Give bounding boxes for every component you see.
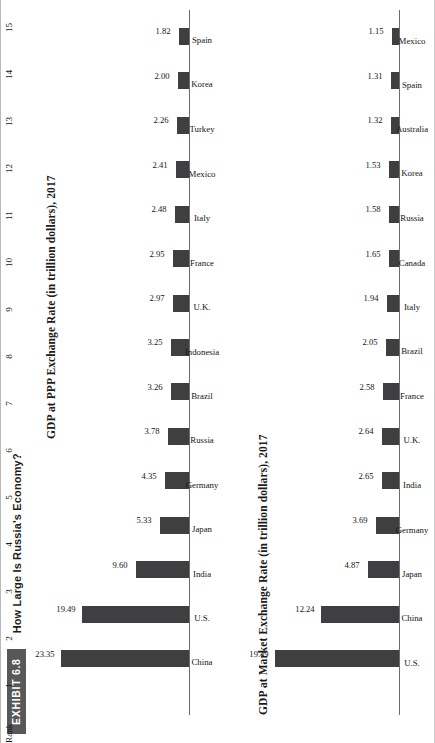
category-label: Indonesia (192, 325, 222, 369)
bar-value-label: 2.48 (152, 204, 167, 214)
category-label: Turkey (192, 103, 222, 147)
bar-value-label: 1.53 (366, 160, 381, 170)
category-label: Brazil (192, 370, 222, 414)
category-label: India (402, 459, 432, 503)
category-label: U.K. (402, 414, 432, 458)
rank-cell: 3 (4, 568, 14, 615)
bar-value-label: 1.94 (363, 293, 378, 303)
bar-ppp-russia (168, 428, 189, 445)
bar-value-label: 2.41 (152, 160, 167, 170)
bar-slot: 3.26 (59, 370, 189, 414)
bar-ppp-brazil (171, 383, 189, 400)
bar-ppp-turkey (177, 117, 189, 134)
bar-ppp-u-k (173, 295, 189, 312)
category-label: Spain (402, 58, 432, 102)
category-label: Canada (402, 236, 432, 280)
rank-cell: 13 (4, 98, 14, 145)
category-label: France (402, 370, 432, 414)
category-label: Mexico (192, 147, 222, 191)
category-label: India (192, 548, 222, 592)
bar-market-china (321, 606, 399, 623)
category-label: Italy (402, 281, 432, 325)
bar-market-u-k (382, 428, 399, 445)
chart-ppp-plot: 23.3519.499.605.334.353.783.263.252.972.… (59, 14, 189, 681)
bar-value-label: 23.35 (35, 649, 54, 659)
bar-value-label: 4.87 (345, 560, 360, 570)
bar-value-label: 3.69 (352, 515, 367, 525)
chart-gdp-ppp: GDP at PPP Exchange Rate (in trillion do… (45, 10, 223, 715)
rank-cell: 10 (4, 239, 14, 286)
category-label: Germany (402, 503, 432, 547)
bar-slot: 3.78 (59, 414, 189, 458)
bar-slot: 2.65 (273, 459, 399, 503)
rank-cell: 1 (4, 662, 14, 709)
category-label: Japan (192, 503, 222, 547)
bar-market-brazil (386, 339, 399, 356)
bar-market-italy (387, 295, 399, 312)
bar-value-label: 2.58 (359, 382, 374, 392)
bar-value-label: 3.26 (148, 382, 163, 392)
bar-ppp-italy (175, 206, 189, 223)
category-label: U.S. (402, 637, 432, 681)
bar-slot: 4.87 (273, 548, 399, 592)
bar-value-label: 2.26 (153, 115, 168, 125)
bar-value-label: 4.35 (142, 471, 157, 481)
bar-slot: 4.35 (59, 459, 189, 503)
bar-market-korea (389, 161, 399, 178)
bar-slot: 2.48 (59, 192, 189, 236)
chart-ppp-bars: 23.3519.499.605.334.353.783.263.252.972.… (59, 14, 189, 681)
chart-market-baseline (399, 10, 400, 715)
chart-market-plot: 19.4912.244.873.692.652.642.582.051.941.… (273, 14, 399, 681)
bar-slot: 2.00 (59, 58, 189, 102)
bar-slot: 1.53 (273, 147, 399, 191)
bar-value-label: 1.82 (156, 26, 171, 36)
bar-slot: 2.95 (59, 236, 189, 280)
rank-cell: 2 (4, 615, 14, 662)
category-label: U.K. (192, 281, 222, 325)
bar-ppp-india (136, 561, 189, 578)
bar-value-label: 2.05 (362, 337, 377, 347)
rank-cell: 12 (4, 145, 14, 192)
bar-value-label: 12.24 (295, 604, 314, 614)
bar-slot: 1.58 (273, 192, 399, 236)
bar-value-label: 5.33 (136, 515, 151, 525)
rank-values-row: 123456789101112131415 (4, 4, 14, 709)
bar-slot: 1.94 (273, 281, 399, 325)
bar-value-label: 1.65 (365, 249, 380, 259)
rank-cell: 14 (4, 51, 14, 98)
bar-market-japan (368, 561, 399, 578)
category-label: Brazil (402, 325, 432, 369)
bar-ppp-mexico (176, 161, 189, 178)
rank-cell: 11 (4, 192, 14, 239)
bar-slot: 3.69 (273, 503, 399, 547)
bar-slot: 1.65 (273, 236, 399, 280)
bar-value-label: 19.49 (57, 604, 76, 614)
bar-slot: 2.41 (59, 147, 189, 191)
rank-cell: 7 (4, 380, 14, 427)
bar-slot: 3.25 (59, 325, 189, 369)
chart-market-title: GDP at Market Exchange Rate (in trillion… (257, 434, 269, 715)
bar-market-canada (389, 250, 399, 267)
bar-slot: 19.49 (59, 592, 189, 636)
category-label: Japan (402, 548, 432, 592)
category-label: Mexico (402, 14, 432, 58)
bar-market-india (382, 472, 399, 489)
rank-cell: 15 (4, 4, 14, 51)
bar-slot: 1.32 (273, 103, 399, 147)
bar-value-label: 1.32 (367, 115, 382, 125)
bar-value-label: 2.00 (155, 71, 170, 81)
exhibit-page: EXHIBIT 6.8 How Large Is Russia's Econom… (0, 0, 435, 743)
bar-slot: 19.49 (273, 637, 399, 681)
bar-slot: 2.26 (59, 103, 189, 147)
bar-ppp-korea (178, 72, 189, 89)
bar-slot: 2.58 (273, 370, 399, 414)
bar-slot: 12.24 (273, 592, 399, 636)
bar-value-label: 2.64 (359, 426, 374, 436)
bar-market-france (383, 383, 399, 400)
bar-slot: 1.31 (273, 58, 399, 102)
bar-value-label: 3.78 (145, 426, 160, 436)
category-label: Russia (192, 414, 222, 458)
rotated-page-wrapper: EXHIBIT 6.8 How Large Is Russia's Econom… (0, 0, 435, 743)
bar-value-label: 1.31 (367, 71, 382, 81)
bar-value-label: 2.97 (149, 293, 164, 303)
